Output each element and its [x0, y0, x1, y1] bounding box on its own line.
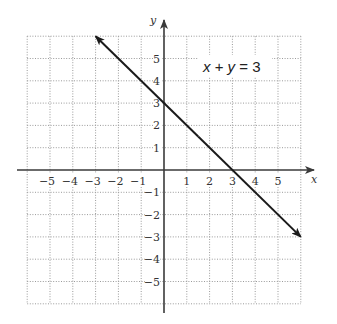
x-tick-label: −5: [39, 175, 55, 188]
y-tick-label: −1: [144, 186, 160, 199]
equation-label: x + y = 3: [202, 58, 261, 75]
x-tick-label: −2: [107, 175, 123, 188]
equation-part-plus: +: [211, 58, 228, 75]
x-tick-label: −3: [84, 175, 100, 188]
y-tick-label: 4: [153, 75, 160, 88]
y-tick-label: 3: [153, 97, 160, 110]
equation-part-equals: = 3: [235, 58, 260, 75]
y-tick-label: −5: [144, 276, 160, 289]
x-tick-label: −4: [62, 175, 78, 188]
y-tick-label: 2: [153, 119, 160, 132]
y-tick-label: −4: [144, 253, 160, 266]
x-tick-label: 2: [206, 175, 213, 188]
y-tick-label: −3: [144, 231, 160, 244]
x-tick-label: 3: [229, 175, 236, 188]
x-tick-label: 4: [252, 175, 259, 188]
x-axis-label: x: [311, 173, 318, 186]
y-tick-label: 1: [153, 142, 160, 155]
coordinate-plane-graph: −5−4−3−2−112345 54321−1−2−3−4−5 x y x + …: [0, 0, 337, 324]
line-segment-upper: [96, 36, 199, 136]
x-tick-label: 5: [275, 175, 282, 188]
y-axis-label: y: [149, 14, 157, 27]
y-tick-label: 5: [153, 53, 160, 66]
x-tick-label: 1: [183, 175, 190, 188]
line-segment-lower: [198, 137, 301, 237]
y-tick-label: −2: [144, 209, 160, 222]
